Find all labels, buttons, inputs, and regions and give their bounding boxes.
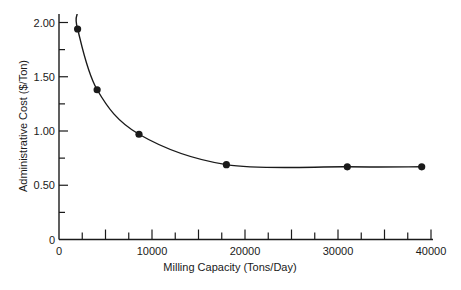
x-tick-label: 0 (56, 245, 62, 257)
y-tick-label: 0.50 (34, 179, 55, 191)
data-point (135, 131, 142, 138)
chart: 010000200003000040000 00.501.001.502.00 … (0, 0, 461, 290)
axes (59, 14, 433, 240)
y-tick-label: 1.00 (34, 125, 55, 137)
data-point (418, 163, 425, 170)
y-tick-label: 0 (49, 234, 55, 246)
data-point (223, 161, 230, 168)
y-tick-label: 2.00 (34, 17, 55, 29)
x-tick-label: 20000 (230, 245, 261, 257)
data-point (94, 86, 101, 93)
x-tick-label: 30000 (323, 245, 354, 257)
y-axis-title: Administrative Cost ($/Ton) (17, 60, 29, 192)
y-axis-ticks: 00.501.001.502.00 (34, 17, 68, 246)
x-tick-label: 10000 (137, 245, 168, 257)
y-tick-label: 1.50 (34, 71, 55, 83)
cost-curve (76, 14, 422, 168)
x-tick-label: 40000 (416, 245, 447, 257)
x-axis-ticks: 010000200003000040000 (56, 230, 446, 257)
data-point (344, 163, 351, 170)
data-point (74, 25, 81, 32)
data-point-markers (74, 25, 425, 170)
x-axis-title: Milling Capacity (Tons/Day) (163, 261, 296, 273)
